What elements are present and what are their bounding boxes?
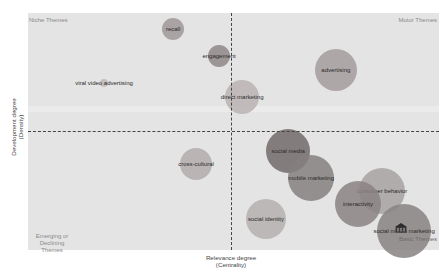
bubble-label: viral video advertising <box>75 80 133 86</box>
x-axis-label-line1: Relevance degree <box>186 254 276 261</box>
bubble-label: mobile marketing <box>288 175 334 181</box>
institution-building-icon <box>394 219 408 229</box>
quadrant-label-basic: Basic Themes <box>399 236 437 243</box>
thematic-map-chart: Niche Themes Motor Themes Emerging or De… <box>0 0 445 279</box>
y-axis-label: Development degree (Density) <box>10 82 24 172</box>
x-axis-label-line2: (Centrality) <box>186 261 276 268</box>
bubble-label: social media <box>271 148 304 154</box>
y-axis-label-line1: Development degree <box>10 82 17 172</box>
bubble-label: social identity <box>248 216 284 222</box>
quadrant-label-motor: Motor Themes <box>398 17 437 24</box>
quadrant-label-niche: Niche Themes <box>29 17 68 24</box>
bubble-label: interactivity <box>343 201 373 207</box>
quadrant-label-emerging-line2: Declining Themes <box>30 240 74 254</box>
bubble-label: recall <box>166 26 180 32</box>
quadrant-label-emerging-line1: Emerging or <box>30 233 74 240</box>
bubble-label: advertising <box>321 67 350 73</box>
x-axis-label: Relevance degree (Centrality) <box>186 254 276 268</box>
quadrant-label-emerging: Emerging or Declining Themes <box>30 233 74 254</box>
y-axis-label-line2: (Density) <box>17 82 24 172</box>
bubble-label: direct marketing <box>221 94 264 100</box>
density-median-line <box>28 131 439 132</box>
bubble-label: cross-cultural <box>178 161 214 167</box>
